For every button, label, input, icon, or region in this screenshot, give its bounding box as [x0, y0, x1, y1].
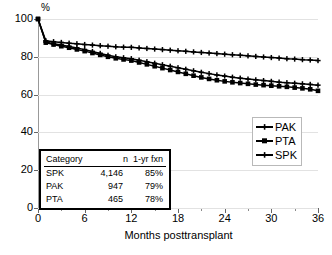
x-tick-mark-minor [201, 209, 202, 211]
legend-marker-square-icon [256, 135, 273, 147]
table-header-fxn: 1-yr fxn [131, 153, 166, 167]
legend-item-pak[interactable]: PAK [256, 120, 297, 134]
table-cell-n: 4,146 [99, 167, 132, 181]
table-header-row: Category n 1-yr fxn [44, 153, 166, 167]
table-row: PAK94779% [44, 180, 166, 193]
table-cell-category: SPK [44, 167, 99, 181]
x-tick-label: 30 [259, 212, 283, 224]
table-header-n: n [99, 153, 132, 167]
survival-chart: % 020406080100 061218243036 Months postt… [0, 0, 332, 255]
table-cell-category: PAK [44, 180, 99, 193]
x-tick-label: 0 [26, 212, 50, 224]
x-tick-label: 36 [306, 212, 330, 224]
table-row: SPK4,14685% [44, 167, 166, 181]
table-cell-fxn: 78% [131, 193, 166, 206]
x-tick-mark-minor [248, 209, 249, 211]
table-cell-n: 465 [99, 193, 132, 206]
legend-marker-plus-icon [256, 121, 273, 133]
x-axis-title: Months posttransplant [38, 229, 319, 241]
legend-label: SPK [275, 149, 297, 161]
summary-table-container: Category n 1-yr fxn SPK4,14685%PAK94779%… [39, 149, 171, 210]
y-tick-label: 80 [0, 51, 33, 62]
table-header-category: Category [44, 153, 99, 167]
table-row: PTA46578% [44, 193, 166, 206]
table-cell-category: PTA [44, 193, 99, 206]
y-tick-label: 40 [0, 126, 33, 137]
x-tick-label: 24 [213, 212, 237, 224]
legend-item-spk[interactable]: SPK [256, 148, 297, 162]
chart-legend: PAKPTASPK [252, 117, 302, 166]
y-tick-label: 60 [0, 89, 33, 100]
table-cell-n: 947 [99, 180, 132, 193]
series-spk [36, 17, 321, 63]
x-tick-label: 12 [119, 212, 143, 224]
table-cell-fxn: 85% [131, 167, 166, 181]
y-tick-label: 100 [0, 13, 33, 24]
x-tick-mark-minor [295, 209, 296, 211]
legend-label: PTA [275, 135, 296, 147]
legend-item-pta[interactable]: PTA [256, 134, 297, 148]
table-cell-fxn: 79% [131, 180, 166, 193]
legend-label: PAK [275, 121, 296, 133]
summary-table: Category n 1-yr fxn SPK4,14685%PAK94779%… [44, 153, 166, 206]
y-tick-label: 20 [0, 164, 33, 175]
y-axis-unit-label: % [41, 2, 50, 13]
x-tick-label: 6 [73, 212, 97, 224]
x-tick-label: 18 [166, 212, 190, 224]
legend-marker-plus-icon [256, 149, 273, 161]
